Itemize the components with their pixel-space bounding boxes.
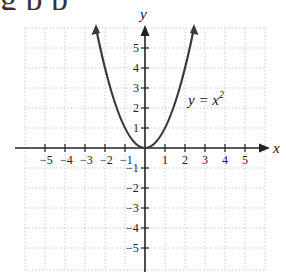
x-tick-label: 4 (222, 153, 228, 167)
y-tick-label: 5 (133, 41, 139, 55)
function-label: y = x2 (186, 89, 224, 108)
x-axis-label: x (272, 140, 280, 156)
y-tick-label: −3 (126, 201, 139, 215)
x-tick-label: 1 (162, 153, 168, 167)
x-tick-label: −4 (60, 153, 73, 167)
y-tick-label: −2 (126, 181, 139, 195)
x-tick-label: −2 (100, 153, 113, 167)
y-tick-label: −1 (126, 161, 139, 175)
x-axis: −5 −4 −3 −2 −1 1 2 3 4 5 x (15, 140, 280, 167)
y-tick-label: −5 (126, 241, 139, 255)
y-axis-label: y (138, 6, 147, 22)
x-tick-label: −3 (80, 153, 93, 167)
curve-right-arrow-icon (190, 24, 199, 35)
x-axis-arrow-icon (259, 144, 270, 153)
x-tick-label: 2 (182, 153, 188, 167)
y-tick-label: 1 (133, 121, 139, 135)
y-axis: 5 4 3 2 1 −1 −2 −3 −4 −5 y (126, 6, 150, 272)
y-tick-label: 3 (133, 81, 139, 95)
y-tick-label: −4 (126, 221, 139, 235)
curve-left-arrow-icon (92, 24, 101, 35)
y-axis-arrow-icon (141, 25, 150, 36)
x-tick-label: 5 (242, 153, 248, 167)
y-tick-label: 4 (133, 61, 139, 75)
y-tick-label: 2 (133, 101, 139, 115)
x-tick-label: 3 (202, 153, 208, 167)
parabola-graph: −5 −4 −3 −2 −1 1 2 3 4 5 x 5 4 3 2 1 (0, 0, 286, 276)
x-tick-label: −5 (40, 153, 53, 167)
